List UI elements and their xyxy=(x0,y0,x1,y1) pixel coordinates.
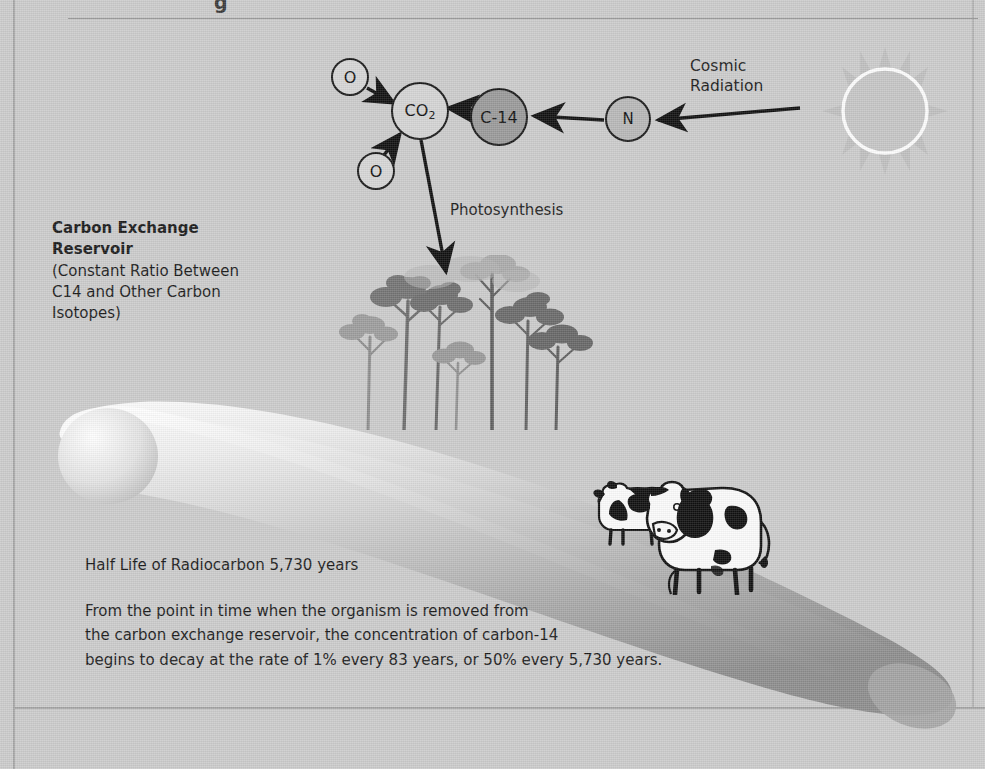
figure-canvas: g xyxy=(0,0,985,769)
half-life-text: Half Life of Radiocarbon 5,730 years xyxy=(85,556,358,574)
decay-paragraph-line-1: From the point in time when the organism… xyxy=(85,599,745,623)
carbon-exchange-reservoir-block: Carbon Exchange Reservoir (Constant Rati… xyxy=(52,218,302,324)
cosmic-radiation-label: Cosmic Radiation xyxy=(690,57,763,97)
reservoir-heading-line-1: Carbon Exchange xyxy=(52,218,302,239)
node-label: O xyxy=(344,68,357,87)
node-label: CO xyxy=(405,101,429,120)
reservoir-detail-line-2: C14 and Other Carbon xyxy=(52,282,302,303)
cosmic-radiation-line-2: Radiation xyxy=(690,77,763,97)
node-label: O xyxy=(370,162,383,181)
decay-paragraph-line-2: the carbon exchange reservoir, the conce… xyxy=(85,623,745,647)
node-oxygen-bottom[interactable]: O xyxy=(357,152,395,190)
arrow-photosynthesis xyxy=(421,140,446,272)
reservoir-heading-line-2: Reservoir xyxy=(52,239,302,260)
decay-paragraph-line-3: begins to decay at the rate of 1% every … xyxy=(85,648,745,672)
arrow-n-to-c14 xyxy=(534,116,604,120)
reservoir-detail-line-1: (Constant Ratio Between xyxy=(52,261,302,282)
node-subscript: 2 xyxy=(428,109,435,122)
photosynthesis-label: Photosynthesis xyxy=(450,201,563,220)
decay-paragraph: From the point in time when the organism… xyxy=(85,599,745,672)
reservoir-detail-line-3: Isotopes) xyxy=(52,303,302,324)
node-c14[interactable]: C-14 xyxy=(470,88,528,146)
arrow-cosmic-to-n xyxy=(658,108,800,120)
node-label: C-14 xyxy=(480,108,517,127)
cosmic-radiation-line-1: Cosmic xyxy=(690,57,763,77)
arrow-o-top-to-co2 xyxy=(367,88,394,103)
node-nitrogen[interactable]: N xyxy=(605,96,651,142)
node-label: N xyxy=(622,110,633,128)
node-oxygen-top[interactable]: O xyxy=(331,58,369,96)
node-co2[interactable]: CO2 xyxy=(391,82,449,140)
